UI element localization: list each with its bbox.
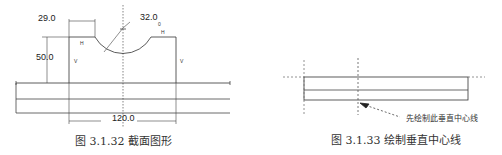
right-figure	[283, 58, 485, 117]
caption-right: 图 3.1.33 绘制垂直中心线	[331, 131, 461, 147]
constraint-h-left: H	[80, 40, 84, 46]
dim-120: 120.0	[112, 113, 135, 123]
caption-left: 图 3.1.32 截面图形	[75, 132, 172, 148]
constraint-v-right: V	[180, 58, 184, 64]
constraint-r-sub: 0	[158, 21, 161, 27]
constraint-h-right: H	[161, 29, 165, 35]
annotation-centerline: 先绘制此垂直中心线	[406, 112, 478, 123]
dim-29: 29.0	[38, 13, 56, 23]
dim-radius: 32.0	[140, 12, 158, 22]
left-figure	[16, 5, 230, 128]
dim-50: 50.0	[36, 52, 54, 62]
constraint-v-left: V	[74, 58, 78, 64]
